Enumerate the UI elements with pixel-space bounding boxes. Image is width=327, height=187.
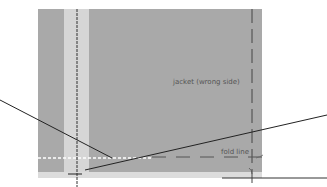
jacket-label: jacket (wrong side)	[173, 78, 240, 86]
leader-line-right	[85, 115, 327, 170]
diagram-lines	[0, 0, 327, 187]
leader-line-left	[0, 100, 112, 158]
fold-line-label: fold line	[221, 148, 249, 156]
